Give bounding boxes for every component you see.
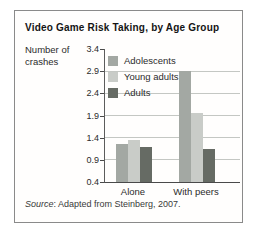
- source-note-text: : Adapted from Steinberg, 2007.: [54, 199, 181, 209]
- legend-swatch-adults: [108, 88, 118, 98]
- bar-young-adults: [128, 140, 140, 182]
- y-tick-mark: [100, 93, 104, 94]
- legend-item-adults: Adults: [108, 87, 179, 98]
- y-tick-label: 2.4: [71, 88, 99, 98]
- y-tick-mark: [100, 160, 104, 161]
- x-category-label: With peers: [173, 186, 218, 197]
- y-tick-label: 1.4: [71, 133, 99, 143]
- y-axis-title: Number of crashes: [25, 44, 69, 67]
- figure-card: Video Game Risk Taking, by Age Group Num…: [14, 10, 243, 223]
- legend-label-adolescents: Adolescents: [124, 55, 176, 66]
- source-note-prefix: Source: [25, 199, 54, 209]
- legend-label-young-adults: Young adults: [124, 71, 179, 82]
- y-axis-title-line2: crashes: [25, 56, 58, 67]
- chart-title: Video Game Risk Taking, by Age Group: [25, 22, 219, 33]
- gridline: [105, 137, 240, 138]
- bar-adults: [203, 149, 215, 182]
- y-axis-title-line1: Number of: [25, 44, 69, 55]
- y-tick-mark: [100, 71, 104, 72]
- legend: Adolescents Young adults Adults: [108, 55, 179, 103]
- y-tick-label: 1.9: [71, 111, 99, 121]
- y-tick-mark: [100, 116, 104, 117]
- bar-group-alone: [116, 140, 152, 182]
- y-tick-mark: [100, 138, 104, 139]
- legend-label-adults: Adults: [124, 87, 150, 98]
- x-category-label: Alone: [121, 186, 145, 197]
- bar-adolescents: [116, 144, 128, 182]
- y-tick-mark: [100, 49, 104, 50]
- source-note: Source: Adapted from Steinberg, 2007.: [25, 199, 181, 209]
- gridline: [105, 115, 240, 116]
- y-tick-label: 0.9: [71, 155, 99, 165]
- bar-young-adults: [191, 113, 203, 182]
- y-tick-label: 2.9: [71, 66, 99, 76]
- y-tick-label: 0.4: [71, 177, 99, 187]
- bar-adolescents: [179, 71, 191, 182]
- legend-item-adolescents: Adolescents: [108, 55, 179, 66]
- y-tick-label: 3.4: [71, 44, 99, 54]
- plot-area: Adolescents Young adults Adults: [104, 49, 240, 183]
- legend-swatch-adolescents: [108, 56, 118, 66]
- legend-swatch-young-adults: [108, 72, 118, 82]
- legend-item-young-adults: Young adults: [108, 71, 179, 82]
- bar-group-with-peers: [179, 71, 215, 182]
- bar-adults: [140, 147, 152, 182]
- y-tick-mark: [100, 182, 104, 183]
